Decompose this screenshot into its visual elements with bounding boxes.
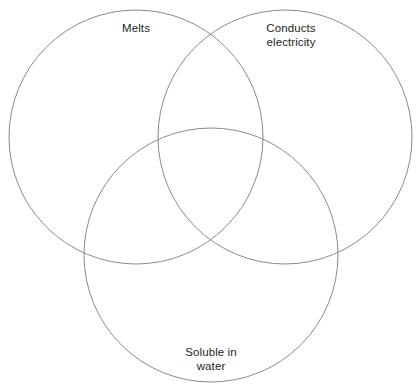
circle-label-soluble-in-water: Soluble in water [161, 345, 261, 373]
circle-label-melts: Melts [96, 21, 176, 35]
circle-melts[interactable] [9, 10, 263, 264]
circle-soluble-in-water[interactable] [84, 128, 338, 382]
circle-label-conducts-electricity: Conducts electricity [243, 21, 339, 49]
venn-diagram-svg [0, 0, 420, 389]
venn-diagram-canvas: Melts Conducts electricity Soluble in wa… [0, 0, 420, 389]
